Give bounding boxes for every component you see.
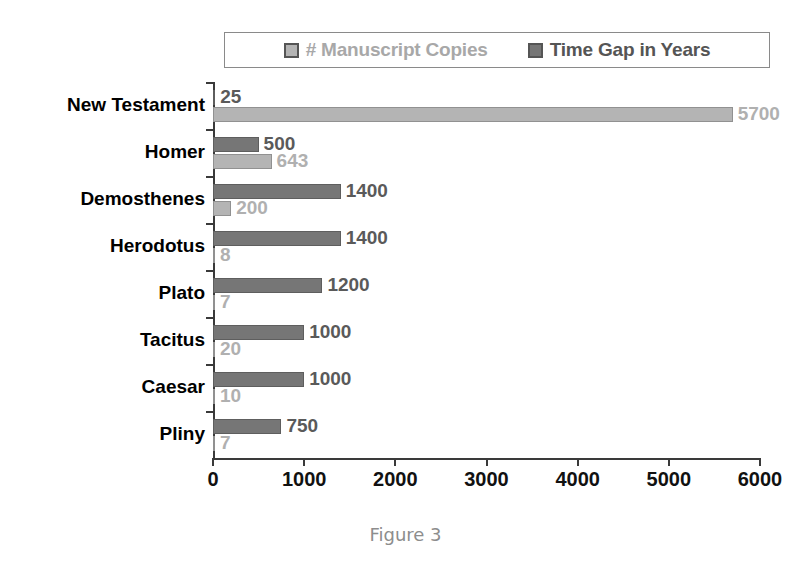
x-tick-label-1000: 1000 (282, 468, 327, 491)
category-label-caesar: Caesar (0, 376, 205, 398)
x-tick-label-4000: 4000 (555, 468, 600, 491)
chart-legend: # Manuscript Copies Time Gap in Years (224, 32, 770, 68)
bar-value-copies-tacitus: 20 (220, 338, 241, 360)
bar-value-copies-pliny: 7 (220, 432, 231, 454)
category-label-plato: Plato (0, 282, 205, 304)
legend-entry-time-gap: Time Gap in Years (528, 39, 711, 61)
y-tick-3 (206, 223, 214, 225)
bar-value-copies-herodotus: 8 (220, 244, 231, 266)
category-label-pliny: Pliny (0, 423, 205, 445)
category-label-homer: Homer (0, 141, 205, 163)
legend-label-copies: # Manuscript Copies (306, 39, 488, 61)
bar-copies-homer (213, 154, 272, 169)
bar-value-copies-caesar: 10 (220, 385, 241, 407)
legend-label-gap: Time Gap in Years (550, 39, 711, 61)
y-tick-6 (206, 364, 214, 366)
y-tick-7 (206, 411, 214, 413)
x-tick-4000 (577, 458, 579, 466)
y-tick-4 (206, 270, 214, 272)
x-tick-1000 (303, 458, 305, 466)
x-tick-label-6000: 6000 (738, 468, 783, 491)
bar-gap-herodotus (213, 231, 341, 246)
x-tick-label-2000: 2000 (373, 468, 418, 491)
x-tick-label-0: 0 (207, 468, 218, 491)
bar-copies-new-testament (213, 107, 733, 122)
bar-copies-tacitus (213, 342, 215, 357)
bar-value-copies-demosthenes: 200 (236, 197, 268, 219)
x-tick-2000 (394, 458, 396, 466)
y-tick-2 (206, 176, 214, 178)
y-tick-1 (206, 129, 214, 131)
bar-value-gap-new-testament: 25 (220, 86, 241, 108)
x-tick-5000 (668, 458, 670, 466)
bar-value-gap-tacitus: 1000 (309, 321, 351, 343)
category-label-tacitus: Tacitus (0, 329, 205, 351)
bar-gap-new-testament (213, 90, 215, 105)
bar-value-gap-plato: 1200 (327, 274, 369, 296)
x-tick-3000 (486, 458, 488, 466)
legend-swatch-icon-gap (528, 43, 543, 58)
bar-gap-homer (213, 137, 259, 152)
category-label-demosthenes: Demosthenes (0, 188, 205, 210)
bar-copies-caesar (213, 389, 215, 404)
y-tick-5 (206, 317, 214, 319)
legend-swatch-icon-copies (284, 43, 299, 58)
category-label-herodotus: Herodotus (0, 235, 205, 257)
bar-copies-plato (213, 295, 215, 310)
bar-value-copies-plato: 7 (220, 291, 231, 313)
bar-value-copies-homer: 643 (277, 150, 309, 172)
x-tick-6000 (759, 458, 761, 466)
legend-entry-manuscript-copies: # Manuscript Copies (284, 39, 488, 61)
bar-copies-demosthenes (213, 201, 231, 216)
chart-page: # Manuscript Copies Time Gap in Years 01… (0, 0, 811, 581)
x-tick-label-5000: 5000 (647, 468, 692, 491)
bar-gap-demosthenes (213, 184, 341, 199)
x-tick-label-3000: 3000 (464, 468, 509, 491)
plot-area: 0100020003000400050006000 New Testament2… (213, 82, 760, 458)
figure-caption: Figure 3 (0, 524, 811, 545)
y-tick-0 (206, 82, 214, 84)
bar-copies-pliny (213, 436, 215, 451)
bar-value-copies-new-testament: 5700 (738, 103, 780, 125)
bar-value-gap-herodotus: 1400 (346, 227, 388, 249)
bar-value-gap-demosthenes: 1400 (346, 180, 388, 202)
bar-value-gap-pliny: 750 (286, 415, 318, 437)
bar-copies-herodotus (213, 248, 215, 263)
x-tick-0 (212, 458, 214, 466)
category-label-new-testament: New Testament (0, 94, 205, 116)
bar-value-gap-caesar: 1000 (309, 368, 351, 390)
